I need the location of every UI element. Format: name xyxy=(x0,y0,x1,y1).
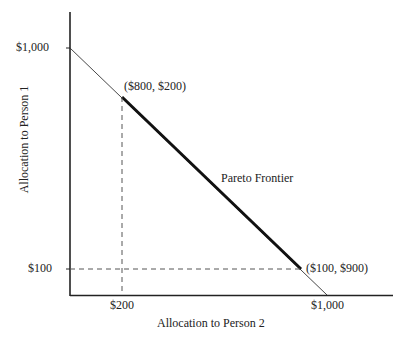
chart-canvas xyxy=(0,0,408,337)
x-axis-label: Allocation to Person 2 xyxy=(157,316,265,331)
annotation-point-a: ($800, $200) xyxy=(124,79,186,94)
xtick-label-200: $200 xyxy=(110,298,134,313)
annotation-point-b: ($100, $900) xyxy=(306,261,368,276)
ytick-label-1000: $1,000 xyxy=(16,40,49,55)
xtick-label-1000: $1,000 xyxy=(311,298,344,313)
annotation-pareto-frontier: Pareto Frontier xyxy=(221,171,293,186)
ytick-label-100: $100 xyxy=(28,261,52,276)
y-axis-label: Allocation to Person 1 xyxy=(17,75,32,205)
